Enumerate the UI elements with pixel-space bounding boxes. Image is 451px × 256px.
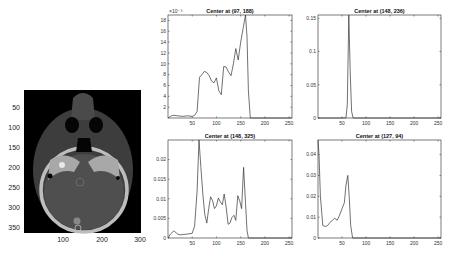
x-tick-label: 150 [386,240,395,246]
y-tick-label: 14 [160,39,166,45]
x-tick-label: 200 [261,240,270,246]
x-tick-label: 50 [189,120,195,126]
subplot-title: Center at (148, 236) [354,8,405,14]
exponent-label: ×10⁻³ [169,8,182,14]
axes-box [168,15,292,118]
axes-box [318,140,441,238]
x-tick-label: 250 [434,240,443,246]
y-tick-label: 0.015 [153,176,166,182]
y-tick-label: 8 [163,71,166,77]
y-tick-label: 0.02 [156,156,166,162]
y-tick-label: 0.05 [306,82,316,88]
x-tick-label: 250 [434,120,443,126]
x-tick-label: 100 [212,120,221,126]
x-tick-label: 50 [189,240,195,246]
y-tick-label: 0.15 [306,15,316,21]
y-tick-label: 16 [160,28,166,34]
y-tick-label: 0.01 [306,214,316,220]
x-tick-label: 100 [212,240,221,246]
y-tick-label: 0 [163,235,166,241]
y-tick-label: 2 [163,104,166,110]
y-tick-label: 4 [163,93,166,99]
histogram-subplot-3: Center at (148, 325)5010015020025000.005… [153,133,293,246]
x-tick-label: 50 [339,240,345,246]
x-tick-label: 200 [261,120,270,126]
x-tick-label: 200 [410,120,419,126]
y-tick-label: 0 [313,235,316,241]
x-tick-label: 100 [362,120,371,126]
histogram-subplot-1: Center at (97, 188)×10⁻³5010015020025024… [160,8,293,126]
x-tick-label: 250 [285,240,294,246]
y-tick-label: 0.1 [309,48,316,54]
x-tick-label: 150 [236,240,245,246]
y-tick-label: 10 [160,61,166,67]
y-tick-label: 0.04 [306,151,316,157]
x-tick-label: 50 [339,120,345,126]
histogram-grid: Center at (97, 188)×10⁻³5010015020025024… [0,0,451,256]
subplot-title: Center at (97, 188) [206,8,254,14]
y-tick-label: 0.02 [306,193,316,199]
x-tick-label: 150 [236,120,245,126]
x-tick-label: 250 [285,120,294,126]
x-tick-label: 150 [386,120,395,126]
y-tick-label: 0.01 [156,196,166,202]
x-tick-label: 200 [410,240,419,246]
subplot-title: Center at (127, 94) [356,133,404,139]
y-tick-label: 0.005 [153,215,166,221]
y-tick-label: 0.03 [306,172,316,178]
y-tick-label: 12 [160,50,166,56]
axes-box [318,15,441,118]
histogram-subplot-2: Center at (148, 236)5010015020025000.050… [306,8,442,126]
y-tick-label: 0 [313,115,316,121]
y-tick-label: 18 [160,17,166,23]
x-tick-label: 100 [362,240,371,246]
histogram-subplot-4: Center at (127, 94)5010015020025000.010.… [306,133,442,246]
y-tick-label: 6 [163,82,166,88]
subplot-title: Center at (148, 325) [205,133,256,139]
